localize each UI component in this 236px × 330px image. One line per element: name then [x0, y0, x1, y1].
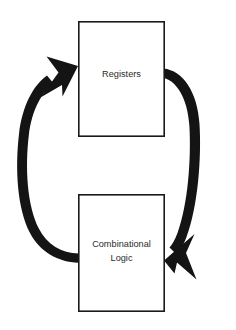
edge-combinational-logic-to-registers — [17, 57, 78, 263]
node-combinational-logic[interactable]: Combinational Logic — [79, 195, 164, 311]
node-combinational-logic-label-line1: Combinational — [92, 239, 151, 249]
edge-registers-to-combinational-logic-tail — [162, 69, 200, 255]
node-registers[interactable]: Registers — [79, 22, 164, 136]
diagram-canvas: Registers Combinational Logic — [0, 0, 236, 330]
node-registers-label: Registers — [102, 69, 141, 79]
node-registers-box[interactable] — [79, 22, 164, 136]
node-combinational-logic-label-line2: Logic — [111, 253, 133, 263]
edge-combinational-logic-to-registers-tail — [17, 76, 78, 263]
diagram-svg: Registers Combinational Logic — [0, 0, 236, 330]
edge-registers-to-combinational-logic — [162, 69, 200, 280]
